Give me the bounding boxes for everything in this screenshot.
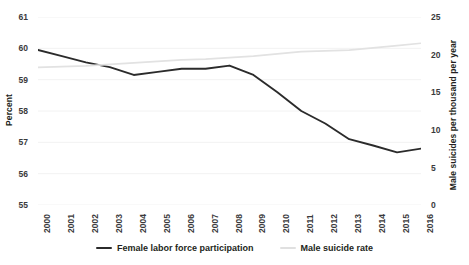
x-axis-tick: 2002 <box>90 214 100 233</box>
x-axis-tick: 2006 <box>186 214 196 233</box>
x-axis-tick: 2000 <box>42 214 52 233</box>
series-layer <box>38 43 421 152</box>
plot-area <box>38 17 421 205</box>
y-axis-left-tick: 61 <box>4 13 28 22</box>
x-axis-tick: 2004 <box>138 214 148 233</box>
y-axis-right-tick: 0 <box>431 201 455 210</box>
x-axis-tick: 2013 <box>353 214 363 233</box>
y-axis-right-tick: 5 <box>431 164 455 173</box>
legend-swatch-line <box>280 247 296 249</box>
x-axis-tick: 2010 <box>281 214 291 233</box>
chart-legend: Female labor force participation Male su… <box>0 243 469 253</box>
y-axis-right-tick: 25 <box>431 13 455 22</box>
y-axis-left-tick: 58 <box>4 107 28 116</box>
legend-label: Male suicide rate <box>301 243 374 253</box>
x-axis-tick: 2015 <box>401 214 411 233</box>
legend-item-male-suicide-rate: Male suicide rate <box>280 243 374 253</box>
x-axis-tick: 2007 <box>210 214 220 233</box>
x-axis-tick: 2005 <box>162 214 172 233</box>
gridlines <box>38 17 421 205</box>
x-axis-tick: 2008 <box>234 214 244 233</box>
y-axis-right-tick: 10 <box>431 126 455 135</box>
legend-swatch-line <box>96 247 112 249</box>
y-axis-right-tick: 20 <box>431 51 455 60</box>
x-axis-tick: 2001 <box>66 214 76 233</box>
legend-label: Female labor force participation <box>117 243 254 253</box>
y-axis-left-tick: 55 <box>4 201 28 210</box>
x-axis-tick: 2014 <box>377 214 387 233</box>
y-axis-left-tick: 60 <box>4 44 28 53</box>
y-axis-left-tick: 57 <box>4 138 28 147</box>
x-axis-tick: 2003 <box>114 214 124 233</box>
y-axis-left-tick: 59 <box>4 76 28 85</box>
x-axis-tick: 2012 <box>329 214 339 233</box>
x-axis-tick: 2011 <box>305 215 315 233</box>
x-axis-tick: 2009 <box>257 214 267 233</box>
line-chart: Percent Male suicides per thousand per y… <box>0 0 469 265</box>
x-axis-tick: 2016 <box>425 214 435 233</box>
y-axis-left-tick: 56 <box>4 170 28 179</box>
y-axis-right-tick: 15 <box>431 88 455 97</box>
legend-item-female-labor-force-participation: Female labor force participation <box>96 243 254 253</box>
